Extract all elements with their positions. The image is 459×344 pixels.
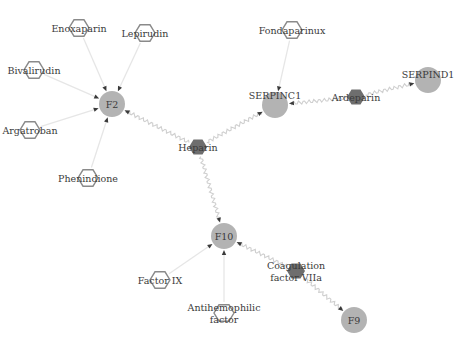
labels-layer: F2SERPINC1SERPIND1F10F9HeparinArdeparinC… [1,23,454,326]
arrowhead-icon [409,82,414,86]
node-label: SERPINC1 [249,90,301,101]
edge-bivalirudin-f2 [44,74,99,98]
node-label: Ardeparin [331,92,381,103]
arrowhead-icon [93,108,98,112]
node-label: Lepirudin [122,28,169,39]
node-label: F2 [106,99,119,110]
arrowhead-icon [104,117,108,122]
node-label: Phenindione [58,173,118,184]
arrowhead-icon [222,250,226,255]
edge-heparin-f10 [200,157,221,223]
node-label: factor [210,314,239,325]
node-label: F9 [348,315,361,326]
node-label: Enoxaparin [51,23,106,34]
edge-lepirudin-f2 [118,43,140,91]
node-label: Coagulation [267,260,325,271]
edge-heparin-f2 [125,110,190,142]
node-label: Bivalirudin [7,65,60,76]
node-label: SERPIND1 [402,69,455,80]
edge-heparin-serpinc1 [207,112,263,143]
node-label: Antihemophilic [187,302,261,313]
edge-factor_ix-f10 [169,244,212,274]
edge-phenindione-f2 [91,117,108,167]
node-label: factor VIIa [270,272,322,283]
arrowhead-icon [207,244,212,249]
node-label: Heparin [178,142,217,153]
edge-fvIIa-f9 [304,278,344,311]
edge-enoxaparin-f2 [83,38,106,91]
node-label: Argatroban [1,125,57,136]
network-diagram: F2SERPINC1SERPIND1F10F9HeparinArdeparinC… [0,0,459,344]
arrowhead-icon [217,217,221,222]
edge-antihemophilic-f10 [222,250,226,302]
edge-fondaparinux-serpinc1 [277,41,290,92]
node-label: Fondaparinux [259,25,326,36]
node-label: F10 [215,231,234,242]
node-label: Factor IX [138,275,183,286]
arrowhead-icon [237,242,242,246]
arrowhead-icon [125,110,130,114]
